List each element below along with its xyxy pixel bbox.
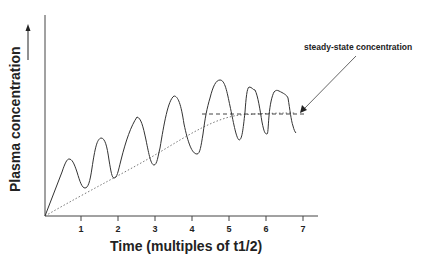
steady-state-annotation: steady-state concentration [304,42,412,52]
chart-canvas [0,0,435,273]
ylabel-arrow-icon [26,24,31,60]
x-tick-label: 4 [186,224,198,234]
x-ticks [81,216,303,221]
concentration-curve [45,80,296,216]
x-tick-label: 1 [75,224,87,234]
x-tick-label: 6 [260,224,272,234]
x-tick-label: 7 [297,224,309,234]
y-axis-label: Plasma concentration [7,47,23,193]
annotation-arrow-icon [300,56,356,113]
x-tick-label: 5 [223,224,235,234]
x-tick-label: 3 [149,224,161,234]
mean-trend-line [45,113,296,216]
x-axis-label: Time (multiples of t1/2) [110,238,262,254]
x-tick-label: 2 [112,224,124,234]
